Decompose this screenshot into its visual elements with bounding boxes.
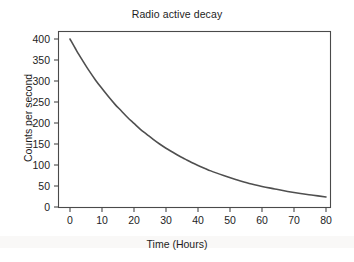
x-tick-label: 20 xyxy=(128,214,140,226)
y-tick-label: 100 xyxy=(32,159,50,171)
x-tick-label: 40 xyxy=(192,214,204,226)
y-tick-label: 50 xyxy=(38,180,50,192)
x-axis-ticks xyxy=(70,208,326,213)
x-tick-label: 50 xyxy=(224,214,236,226)
plot-area: 0 50 100 150 200 250 300 350 400 0 10 2 xyxy=(0,0,354,262)
y-tick-label: 150 xyxy=(32,138,50,150)
y-axis-ticks xyxy=(54,39,59,207)
y-tick-label: 350 xyxy=(32,54,50,66)
plot-frame xyxy=(59,32,331,208)
decay-curve xyxy=(70,39,326,197)
x-tick-label: 60 xyxy=(256,214,268,226)
y-tick-label: 0 xyxy=(44,201,50,213)
y-tick-label: 300 xyxy=(32,75,50,87)
y-tick-label: 200 xyxy=(32,117,50,129)
y-tick-label: 400 xyxy=(32,33,50,45)
y-tick-labels: 0 50 100 150 200 250 300 350 400 xyxy=(32,33,50,213)
y-tick-label: 250 xyxy=(32,96,50,108)
x-tick-labels: 0 10 20 30 40 50 60 70 80 xyxy=(67,214,332,226)
x-tick-label: 30 xyxy=(160,214,172,226)
x-tick-label: 80 xyxy=(320,214,332,226)
x-tick-label: 70 xyxy=(288,214,300,226)
x-tick-label: 0 xyxy=(67,214,73,226)
x-tick-label: 10 xyxy=(96,214,108,226)
chart-figure: Radio active decay Counts per second Tim… xyxy=(0,0,354,262)
